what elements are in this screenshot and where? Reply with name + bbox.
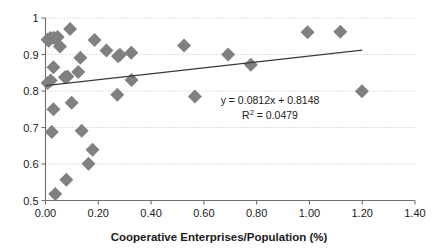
chart-canvas: 0.50.60.70.80.91 0.000.200.400.600.801.0… (0, 0, 433, 250)
x-tick-label: 1.20 (352, 207, 373, 219)
data-point-marker (46, 102, 60, 116)
data-point-marker (88, 33, 102, 47)
y-tick-label: 0.7 (23, 122, 38, 134)
data-point-marker (59, 173, 73, 187)
y-tick-label: 1 (32, 12, 38, 24)
data-point-marker (301, 25, 315, 39)
data-point-marker (110, 88, 124, 102)
y-tick-label: 0.9 (23, 49, 38, 61)
trendline (46, 50, 363, 86)
y-tick-label: 0.5 (23, 195, 38, 207)
scatter-chart: 0.50.60.70.80.91 0.000.200.400.600.801.0… (0, 0, 433, 250)
data-point-marker (46, 60, 60, 74)
data-point-marker (73, 51, 87, 65)
data-point-marker (85, 143, 99, 157)
data-point-marker (65, 96, 79, 110)
x-tick-label: 0.00 (35, 207, 56, 219)
data-point-marker (48, 187, 62, 201)
x-tick-marks (46, 201, 416, 205)
data-points (41, 22, 369, 201)
y-tick-label: 0.6 (23, 158, 38, 170)
gridlines (46, 18, 416, 201)
x-tick-label: 0.60 (193, 207, 214, 219)
data-point-marker (355, 84, 369, 98)
data-point-marker (75, 124, 89, 138)
x-tick-labels: 0.000.200.400.600.801.001.201.40 (35, 207, 426, 219)
y-tick-label: 0.8 (23, 85, 38, 97)
data-point-marker (124, 46, 138, 60)
y-tick-labels: 0.50.60.70.80.91 (23, 12, 38, 207)
y-tick-marks (42, 18, 46, 201)
x-tick-label: 0.20 (88, 207, 109, 219)
x-tick-label: 1.40 (404, 207, 425, 219)
data-point-marker (177, 38, 191, 52)
data-point-marker (244, 58, 258, 72)
r2-suffix: = 0.0479 (254, 109, 298, 121)
data-point-marker (99, 43, 113, 57)
x-tick-label: 1.00 (299, 207, 320, 219)
trendline-r2-label: R2 = 0.0479 (242, 108, 298, 121)
x-tick-label: 0.40 (140, 207, 161, 219)
data-point-marker (45, 125, 59, 139)
data-point-marker (333, 25, 347, 39)
x-axis-title: Cooperative Enterprises/Population (%) (111, 231, 328, 243)
x-tick-label: 0.80 (246, 207, 267, 219)
data-point-marker (82, 157, 96, 171)
data-point-marker (63, 22, 77, 36)
trendline-equation-label: y = 0.0812x + 0.8148 (221, 94, 320, 106)
data-point-marker (221, 48, 235, 62)
data-point-marker (188, 89, 202, 103)
